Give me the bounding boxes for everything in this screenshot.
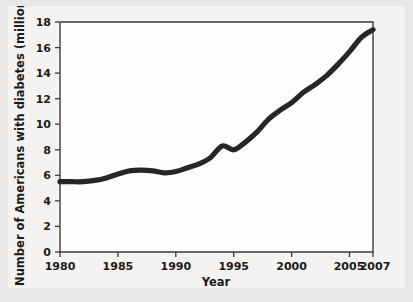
y-tick-label: 12 (36, 93, 51, 106)
y-tick-label: 8 (43, 144, 51, 157)
x-tick-label: 1995 (218, 260, 249, 273)
y-axis-ticks (55, 22, 60, 252)
figure-container: 0 2 4 6 8 10 12 14 16 18 1980 1985 1990 … (0, 0, 413, 302)
y-axis-tick-labels: 0 2 4 6 8 10 12 14 16 18 (36, 16, 52, 259)
x-tick-label: 1985 (103, 260, 134, 273)
x-axis-tick-labels: 1980 1985 1990 1995 2000 2005 2007 (45, 260, 391, 273)
x-tick-label: 2000 (276, 260, 307, 273)
x-tick-label: 1990 (160, 260, 191, 273)
y-axis-title: Number of Americans with diabetes (milli… (13, 6, 27, 286)
y-tick-label: 16 (36, 42, 52, 55)
chart-panel: 0 2 4 6 8 10 12 14 16 18 1980 1985 1990 … (8, 6, 405, 288)
y-tick-label: 14 (36, 67, 52, 80)
x-axis-ticks (60, 252, 373, 257)
y-tick-label: 4 (43, 195, 51, 208)
plot-area-background (60, 22, 373, 252)
y-tick-label: 10 (36, 118, 52, 131)
x-tick-label: 1980 (45, 260, 76, 273)
line-chart: 0 2 4 6 8 10 12 14 16 18 1980 1985 1990 … (8, 6, 405, 288)
y-tick-label: 6 (43, 169, 51, 182)
y-tick-label: 2 (43, 220, 51, 233)
x-tick-label: 2007 (360, 260, 391, 273)
y-tick-label: 18 (36, 16, 51, 29)
y-tick-label: 0 (43, 246, 51, 259)
x-axis-title: Year (201, 275, 231, 288)
